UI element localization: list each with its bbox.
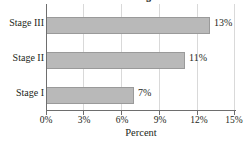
bar-stage-i[interactable] (46, 87, 134, 104)
value-label-stage-ii: 11% (189, 52, 207, 63)
x-tick-label-12: 12% (190, 115, 207, 126)
x-axis-title: Percent (46, 127, 236, 138)
x-tick-label-3: 3% (78, 115, 91, 126)
category-label-stage-iii: Stage III (0, 17, 44, 28)
value-label-stage-iii: 13% (214, 17, 232, 28)
x-tick-label-0: 0% (40, 115, 53, 126)
x-axis-line (46, 110, 236, 111)
gridline-15 (234, 4, 235, 110)
y-axis-line (46, 4, 47, 111)
category-label-stage-ii: Stage II (0, 52, 44, 63)
value-label-stage-i: 7% (138, 87, 151, 98)
bar-stage-ii[interactable] (46, 52, 185, 69)
category-axis-labels: Stage III Stage II Stage I (0, 0, 44, 142)
bar-chart: 5 Years after Diagnosis Stage III Stage … (0, 0, 247, 142)
x-tick-label-9: 9% (154, 115, 167, 126)
x-tick-label-15: 15% (225, 115, 242, 126)
bar-stage-iii[interactable] (46, 17, 210, 34)
category-label-stage-i: Stage I (0, 87, 44, 98)
x-tick-label-6: 6% (116, 115, 129, 126)
